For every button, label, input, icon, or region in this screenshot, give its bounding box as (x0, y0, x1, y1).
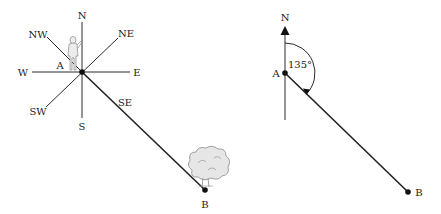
diagram-canvas: N NE E SE S SW W NW A B N A B 135° (0, 0, 441, 214)
label-e: E (133, 67, 140, 78)
point-b-dot (202, 187, 208, 193)
point-b-dot-right (405, 189, 411, 195)
label-n: N (78, 10, 87, 21)
label-point-a-left: A (55, 60, 64, 71)
label-sw: SW (29, 106, 47, 117)
angle-label: 135° (288, 59, 312, 70)
label-se: SE (118, 97, 132, 108)
label-s: S (79, 121, 86, 132)
person-figure-icon (68, 37, 82, 71)
label-north-right: N (281, 12, 290, 23)
bearing-line-a-to-b (285, 73, 408, 192)
bearing-diagram (281, 26, 409, 192)
label-point-b-left: B (201, 199, 208, 210)
path-a-to-b-line (82, 72, 205, 190)
label-nw: NW (28, 29, 48, 40)
point-a-dot-right (282, 70, 288, 76)
label-w: W (18, 67, 29, 78)
label-point-b-right: B (415, 187, 422, 198)
label-ne: NE (118, 28, 134, 39)
point-a-dot (79, 69, 85, 75)
label-point-a-right: A (271, 68, 280, 79)
north-arrow-icon (281, 26, 290, 35)
